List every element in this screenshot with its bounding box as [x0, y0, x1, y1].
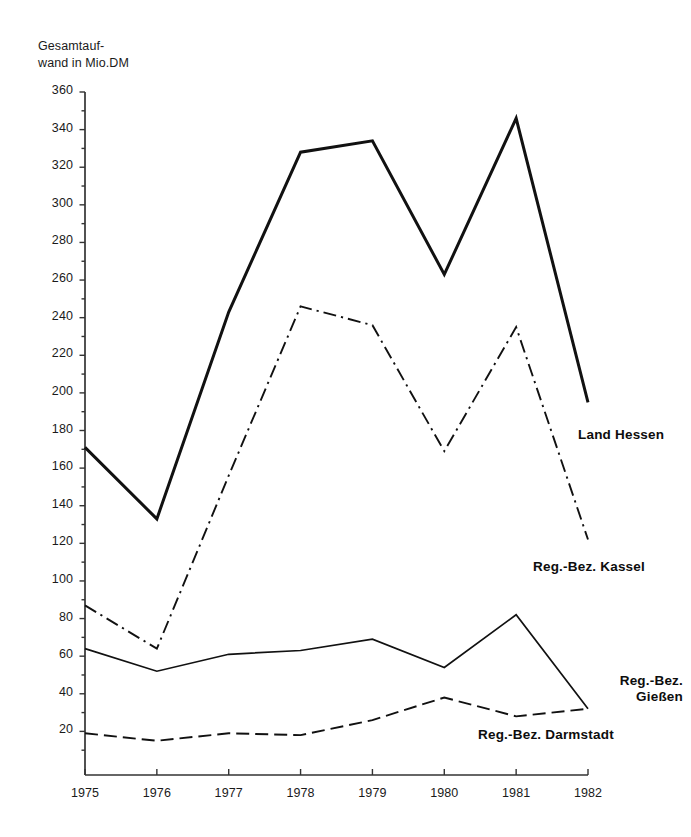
- y-tick-label: 260: [33, 271, 73, 285]
- x-tick-label: 1981: [486, 786, 546, 800]
- x-tick-label: 1980: [414, 786, 474, 800]
- y-axis-title: Gesamtauf- wand in Mio.DM: [38, 38, 129, 72]
- x-tick-label: 1976: [127, 786, 187, 800]
- y-tick-label: 300: [33, 196, 73, 210]
- y-tick-label: 340: [33, 121, 73, 135]
- series-label-kassel: Reg.-Bez. Kassel: [533, 559, 645, 575]
- y-axis-title-line2: wand in Mio.DM: [38, 56, 129, 70]
- y-tick-label: 280: [33, 233, 73, 247]
- x-tick-label: 1977: [199, 786, 259, 800]
- series-line-reg-bez-kassel: [85, 306, 588, 648]
- chart-figure: Gesamtauf- wand in Mio.DM 36034032030028…: [0, 0, 691, 837]
- y-tick-label: 180: [33, 422, 73, 436]
- y-tick-label: 60: [33, 647, 73, 661]
- y-tick-label: 320: [33, 158, 73, 172]
- series-line-land-hessen: [85, 118, 588, 519]
- x-tick-label: 1978: [271, 786, 331, 800]
- y-tick-label: 140: [33, 497, 73, 511]
- x-tick-label: 1979: [342, 786, 402, 800]
- y-tick-label: 160: [33, 459, 73, 473]
- series-label-darmstadt: Reg.-Bez. Darmstadt: [478, 727, 614, 743]
- y-tick-label: 80: [33, 610, 73, 624]
- series-label-land-hessen: Land Hessen: [578, 427, 664, 443]
- y-tick-label: 120: [33, 534, 73, 548]
- chart-series-layer: [85, 118, 588, 740]
- series-label-giessen: Reg.-Bez. Gießen: [0, 673, 683, 705]
- y-tick-label: 20: [33, 722, 73, 736]
- y-axis-title-line1: Gesamtauf-: [38, 39, 104, 53]
- y-tick-label: 360: [33, 83, 73, 97]
- y-tick-label: 240: [33, 309, 73, 323]
- x-tick-label: 1982: [558, 786, 618, 800]
- y-tick-label: 220: [33, 346, 73, 360]
- y-tick-label: 200: [33, 384, 73, 398]
- x-tick-label: 1975: [55, 786, 115, 800]
- series-label-giessen-line2: Gießen: [636, 689, 683, 704]
- y-tick-label: 100: [33, 572, 73, 586]
- series-label-giessen-line1: Reg.-Bez.: [620, 673, 683, 688]
- chart-plot-area: [0, 0, 691, 837]
